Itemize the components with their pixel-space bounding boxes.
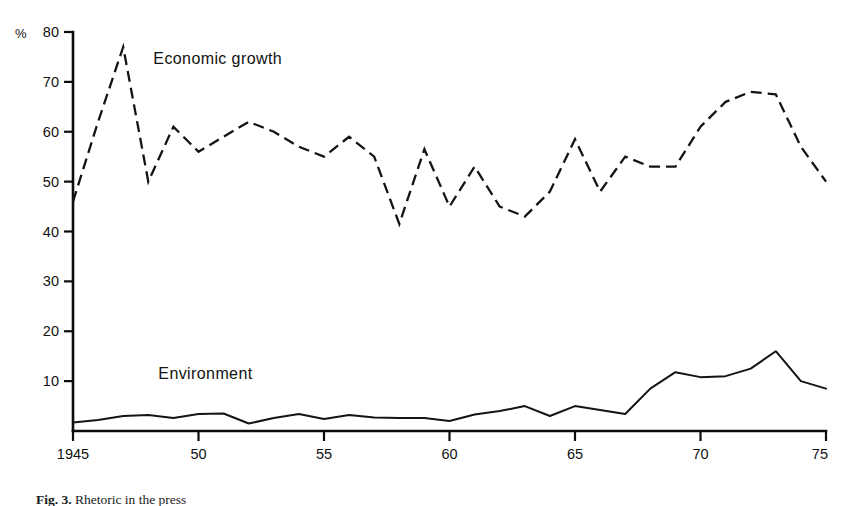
y-tick-label: 80 [43,24,59,40]
y-tick-label: 70 [43,74,59,90]
series-labels: Economic growthEnvironment [153,50,282,381]
caption-text: Rhetoric in the press [75,492,186,506]
y-tick-label: 50 [43,174,59,190]
x-tick-label: 65 [567,446,583,462]
x-tick-label: 55 [316,446,332,462]
y-tick-label: 30 [43,273,59,289]
caption-label: Fig. 3. [36,492,72,506]
figure-caption: Fig. 3. Rhetoric in the press [36,490,186,506]
series-line-environment [73,351,826,423]
tick-labels: 1020304050607080%1945505560657075 [15,24,828,462]
series-label-environment: Environment [158,365,252,382]
series-label-economic-growth: Economic growth [153,50,282,67]
y-tick-label: 40 [43,224,59,240]
series-line-economic-growth [73,47,826,224]
x-tick-label: 1945 [57,446,89,462]
x-tick-label: 70 [692,446,708,462]
y-tick-label: 20 [43,323,59,339]
x-tick-label: 50 [190,446,206,462]
y-tick-label: 60 [43,124,59,140]
y-axis-unit-label: % [15,26,27,41]
x-tick-label: 60 [441,446,457,462]
y-tick-label: 10 [43,373,59,389]
x-tick-label: 75 [812,446,828,462]
